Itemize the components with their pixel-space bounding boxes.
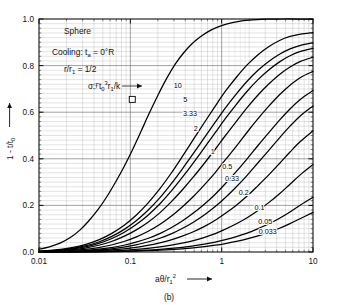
y-axis-title: 1 - t/t0 bbox=[5, 138, 16, 160]
curve-label-5: 5 bbox=[183, 95, 187, 104]
curve-label-3-33: 3.33 bbox=[183, 109, 197, 118]
annotation-radius-ratio: r/r1 = 1/2 bbox=[64, 64, 97, 75]
x-axis-title-text: aθ/r bbox=[155, 274, 170, 284]
annotation-geometry: Sphere bbox=[64, 26, 91, 36]
x-tick-label: 1 bbox=[219, 257, 224, 266]
y-tick-label: 0.2 bbox=[23, 201, 35, 210]
annotation-bi-parameter: σℱt03r1/k bbox=[88, 80, 121, 92]
curve-label-0-033: 0.033 bbox=[259, 227, 277, 236]
x-tick-label: 0.1 bbox=[125, 257, 137, 266]
curve-label-0-5: 0.5 bbox=[222, 162, 232, 171]
curve-label-1: 1 bbox=[211, 147, 215, 156]
figure-container: 0.010.1110 0.00.20.40.60.81.0 1053.33210… bbox=[0, 0, 338, 305]
x-axis-title-sub: 1 bbox=[169, 279, 172, 285]
curve-label-10: 10 bbox=[174, 81, 182, 90]
y-axis-title-text: 1 - t/t bbox=[5, 140, 15, 160]
y-tick-label: 0.0 bbox=[23, 248, 35, 257]
curve-label-0-2: 0.2 bbox=[239, 188, 249, 197]
ratio-value: = 1/2 bbox=[75, 64, 97, 74]
y-tick-label: 0.4 bbox=[23, 155, 35, 164]
y-tick-label: 0.6 bbox=[23, 108, 35, 117]
x-tick-label: 10 bbox=[308, 257, 318, 266]
y-axis-title-sub: 0 bbox=[10, 138, 16, 141]
chart-svg: 0.010.1110 0.00.20.40.60.81.0 1053.33210… bbox=[0, 0, 338, 305]
curve-label-0-33: 0.33 bbox=[225, 174, 239, 183]
highlight-marker bbox=[129, 96, 135, 102]
param-t-subscript: 0 bbox=[101, 86, 104, 92]
y-tick-label: 0.8 bbox=[23, 62, 35, 71]
cooling-value: = 0°R bbox=[91, 47, 115, 57]
curve-label-2: 2 bbox=[194, 124, 198, 133]
param-over-k: /k bbox=[114, 82, 121, 91]
annotation-cooling: Cooling: ta = 0°R bbox=[52, 47, 114, 58]
y-tick-label: 1.0 bbox=[23, 15, 35, 24]
x-tick-label: 0.01 bbox=[31, 257, 47, 266]
cooling-prefix: Cooling: t bbox=[52, 47, 88, 57]
x-axis-title-sup: 2 bbox=[173, 273, 176, 279]
figure-background bbox=[0, 0, 338, 305]
curve-label-0-05: 0.05 bbox=[258, 217, 272, 226]
ratio-numerator: r/r bbox=[64, 64, 72, 74]
curve-label-0-1: 0.1 bbox=[255, 203, 265, 212]
panel-label: (b) bbox=[164, 292, 174, 302]
